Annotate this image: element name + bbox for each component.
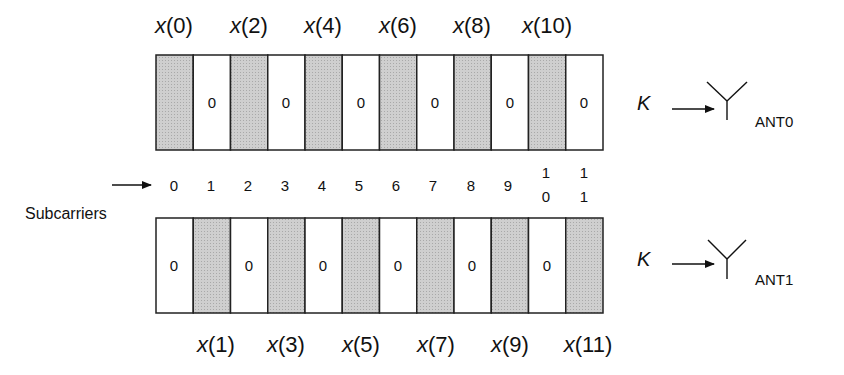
antenna0-top-labels: x(0) x(2) x(4) x(6) x(8) x(10) [154,13,572,38]
svg-text:1: 1 [580,188,588,205]
ant1-cell-1-data [193,218,230,313]
bottom-label-x1: x(1) [196,332,235,357]
top-label-x10: x(10) [521,13,572,38]
ant1-zero-10: 0 [543,257,551,274]
subcarrier-index-7: 7 [429,177,437,194]
ant0-cell-4-data [305,55,342,150]
antenna1-subcarrier-block: 0 0 0 0 0 0 [156,218,603,313]
subcarrier-index-6: 6 [392,177,400,194]
subcarrier-index-5: 5 [355,177,363,194]
subcarrier-index-2: 2 [244,177,252,194]
ant1-cell-9-data [491,218,528,313]
ant0-zero-11: 0 [580,94,588,111]
subcarrier-mapping-diagram: x(0) x(2) x(4) x(6) x(8) x(10) 0 0 0 0 0… [0,0,844,375]
antenna1-output: K ANT1 [637,240,793,288]
bottom-label-x5: x(5) [341,332,380,357]
ant0-zero-5: 0 [357,94,365,111]
subcarrier-axis: Subcarriers 0 1 2 3 4 5 6 7 8 9 1 0 1 1 [25,164,588,222]
ant1-cell-3-data [268,218,305,313]
ant1-zero-2: 0 [245,257,253,274]
ant0-cell-6-data [380,55,417,150]
top-label-x0: x(0) [154,13,193,38]
ant0-cell-0-data [156,55,193,150]
ant1-zero-8: 0 [468,257,476,274]
ant1-cell-11-data [566,218,603,313]
top-label-x4: x(4) [303,13,342,38]
ant1-zero-4: 0 [319,257,327,274]
bottom-label-x7: x(7) [416,332,455,357]
subcarrier-index-10: 1 0 [542,164,550,205]
ant1-zero-6: 0 [394,257,402,274]
ant1-cell-5-data [342,218,379,313]
ant0-zero-9: 0 [506,94,514,111]
ant0-label: ANT0 [755,113,793,130]
ant0-zero-1: 0 [208,94,216,111]
ant0-zero-7: 0 [431,94,439,111]
top-label-x6: x(6) [378,13,417,38]
ant0-zero-3: 0 [282,94,290,111]
subcarrier-index-9: 9 [504,177,512,194]
ant0-cell-8-data [454,55,491,150]
top-label-x8: x(8) [452,13,491,38]
antenna0-icon [707,82,747,120]
svg-text:1: 1 [542,164,550,181]
subcarrier-index-1: 1 [207,177,215,194]
k-label-ant0: K [637,92,652,114]
subcarrier-index-11: 1 1 [580,164,588,205]
subcarrier-index-4: 4 [318,177,326,194]
bottom-label-x3: x(3) [266,332,305,357]
antenna1-bottom-labels: x(1) x(3) x(5) x(7) x(9) x(11) [196,332,612,357]
antenna0-output: K ANT0 [637,82,793,130]
top-label-x2: x(2) [229,13,268,38]
k-label-ant1: K [637,248,652,270]
ant0-cell-2-data [231,55,268,150]
subcarrier-index-8: 8 [467,177,475,194]
svg-text:1: 1 [580,164,588,181]
antenna1-icon [708,240,746,279]
svg-text:0: 0 [542,188,550,205]
ant1-zero-0: 0 [170,257,178,274]
bottom-label-x11: x(11) [563,332,613,357]
ant1-cell-7-data [417,218,454,313]
ant1-label: ANT1 [755,271,793,288]
bottom-label-x9: x(9) [490,332,529,357]
subcarriers-label: Subcarriers [25,205,107,222]
antenna0-subcarrier-block: 0 0 0 0 0 0 [156,55,603,150]
subcarrier-index-0: 0 [170,177,178,194]
subcarrier-index-3: 3 [281,177,289,194]
ant0-cell-10-data [529,55,566,150]
